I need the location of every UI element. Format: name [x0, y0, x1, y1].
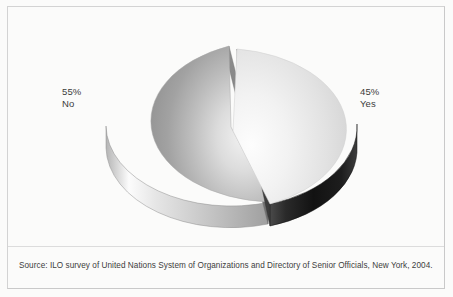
slice-label-yes-percent: 45%	[360, 86, 379, 98]
source-divider	[8, 246, 444, 247]
slice-label-no: 55% No	[62, 86, 81, 110]
slice-label-no-name: No	[62, 98, 81, 110]
slice-label-no-percent: 55%	[62, 86, 81, 98]
slice-label-yes-name: Yes	[360, 98, 379, 110]
chart-figure: 55% No 45% Yes Source: ILO survey of Uni…	[0, 0, 453, 297]
slice-label-yes: 45% Yes	[360, 86, 379, 110]
source-note: Source: ILO survey of United Nations Sys…	[19, 261, 433, 270]
pie-chart-plot	[0, 0, 453, 297]
